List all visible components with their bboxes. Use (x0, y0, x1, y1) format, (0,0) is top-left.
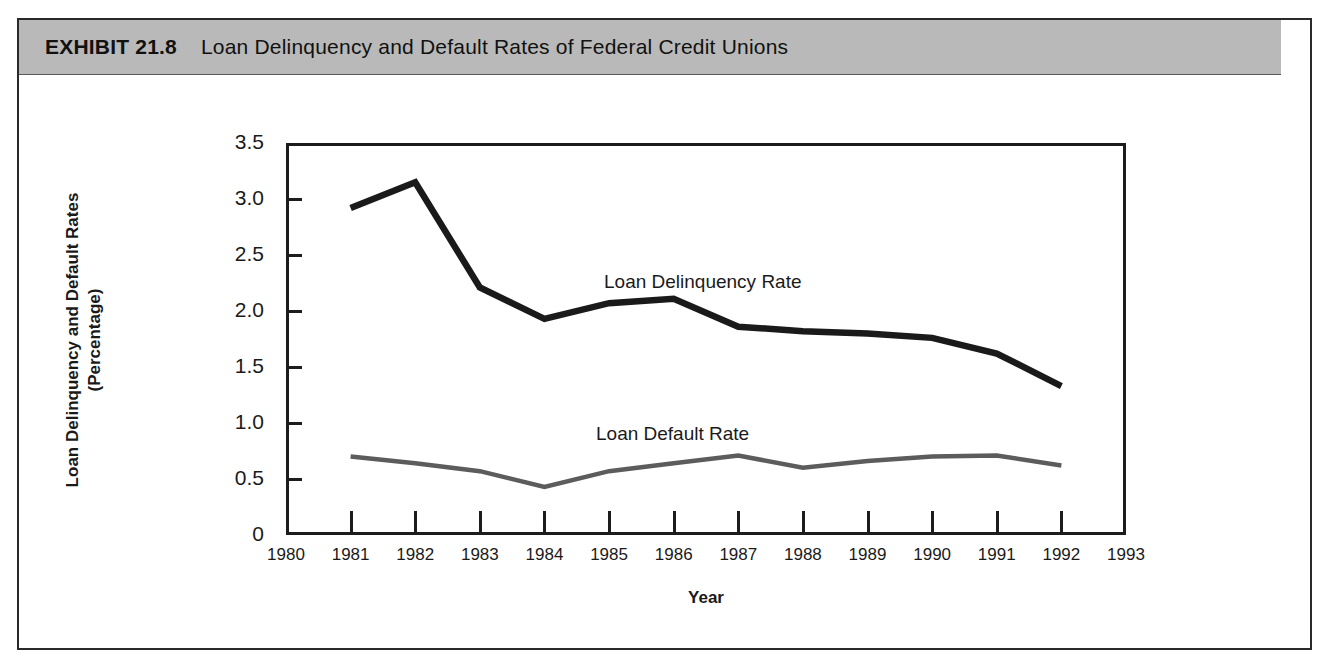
x-tick-label: 1989 (833, 545, 903, 565)
x-tick-label: 1987 (703, 545, 773, 565)
x-tick-label: 1985 (574, 545, 644, 565)
x-tick-label: 1981 (316, 545, 386, 565)
y-tick-label: 3.5 (200, 130, 264, 154)
y-tick-label: 1.0 (200, 410, 264, 434)
y-axis-title-line2: (Percentage) (85, 289, 104, 392)
y-tick-label: 2.5 (200, 242, 264, 266)
y-tick-mark (286, 310, 302, 313)
y-tick-label: 0.5 (200, 466, 264, 490)
x-tick-mark (737, 511, 740, 535)
x-tick-mark (608, 511, 611, 535)
x-tick-mark (414, 511, 417, 535)
x-tick-label: 1984 (509, 545, 579, 565)
x-tick-mark (996, 511, 999, 535)
x-tick-mark (350, 511, 353, 535)
y-tick-mark (286, 254, 302, 257)
y-tick-label: 1.5 (200, 354, 264, 378)
x-tick-mark (931, 511, 934, 535)
x-tick-label: 1980 (251, 545, 321, 565)
x-tick-label: 1983 (445, 545, 515, 565)
series-label-loan-delinquency-rate: Loan Delinquency Rate (604, 271, 802, 293)
y-tick-label: 3.0 (200, 186, 264, 210)
y-tick-label: 2.0 (200, 298, 264, 322)
x-tick-label: 1990 (897, 545, 967, 565)
x-tick-label: 1992 (1026, 545, 1096, 565)
y-axis-title-line1: Loan Delinquency and Default Rates (63, 193, 82, 488)
x-tick-label: 1982 (380, 545, 450, 565)
x-tick-label: 1993 (1091, 545, 1161, 565)
x-tick-mark (543, 511, 546, 535)
x-tick-mark (1060, 511, 1063, 535)
x-tick-label: 1991 (962, 545, 1032, 565)
x-tick-mark (802, 511, 805, 535)
plot-frame (286, 143, 1126, 535)
x-tick-mark (867, 511, 870, 535)
chart-area: 00.51.01.52.02.53.03.5 19801981198219831… (0, 0, 1331, 672)
y-axis-title: Loan Delinquency and Default Rates (Perc… (62, 190, 106, 490)
x-tick-mark (479, 511, 482, 535)
y-tick-mark (286, 198, 302, 201)
x-tick-mark (673, 511, 676, 535)
y-tick-mark (286, 422, 302, 425)
y-tick-label: 0 (200, 522, 264, 546)
series-label-loan-default-rate: Loan Default Rate (596, 423, 749, 445)
x-tick-label: 1986 (639, 545, 709, 565)
y-tick-mark (286, 478, 302, 481)
y-tick-mark (286, 366, 302, 369)
x-tick-label: 1988 (768, 545, 838, 565)
x-axis-title: Year (566, 588, 846, 608)
